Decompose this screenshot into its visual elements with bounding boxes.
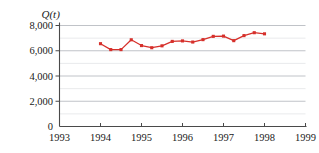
x-tick-label: 1997 xyxy=(213,132,234,143)
data-series-group xyxy=(99,31,266,51)
y-tick-label: 4,000 xyxy=(29,71,53,82)
data-point-marker xyxy=(212,35,215,38)
data-point-marker xyxy=(140,44,143,47)
line-chart: 02,0004,0006,0008,000 199319941995199619… xyxy=(0,0,319,153)
data-point-marker xyxy=(232,39,235,42)
data-point-marker xyxy=(181,39,184,42)
data-point-marker xyxy=(99,42,102,45)
data-point-marker xyxy=(171,40,174,43)
x-tick-label: 1999 xyxy=(295,132,316,143)
y-axis-ticks: 02,0004,0006,0008,000 xyxy=(29,20,59,132)
data-point-marker xyxy=(263,32,266,35)
data-point-marker xyxy=(150,46,153,49)
y-axis-label: Q(t) xyxy=(42,8,61,21)
data-point-marker xyxy=(201,38,204,41)
y-tick-label: 2,000 xyxy=(29,96,53,107)
data-point-marker xyxy=(222,35,225,38)
x-tick-label: 1994 xyxy=(90,132,112,143)
data-point-marker xyxy=(109,48,112,51)
data-point-marker xyxy=(191,40,194,43)
y-tick-label: 0 xyxy=(48,121,53,132)
x-axis-ticks: 1993199419951996199719981999 xyxy=(49,123,316,143)
x-tick-label: 1993 xyxy=(49,132,70,143)
data-point-marker xyxy=(160,44,163,47)
data-point-marker xyxy=(130,38,133,41)
data-point-marker xyxy=(253,31,256,34)
x-tick-label: 1998 xyxy=(254,132,275,143)
y-tick-label: 8,000 xyxy=(29,20,53,31)
x-tick-label: 1996 xyxy=(172,132,193,143)
x-tick-label: 1995 xyxy=(131,132,152,143)
chart-container: 02,0004,0006,0008,000 199319941995199619… xyxy=(0,0,319,153)
data-point-marker xyxy=(242,34,245,37)
data-point-marker xyxy=(119,48,122,51)
y-tick-label: 6,000 xyxy=(29,45,53,56)
